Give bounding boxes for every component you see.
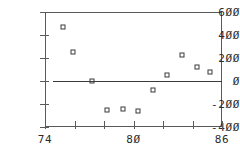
data-point bbox=[150, 88, 155, 93]
y-axis-tick-label: 4ØØ bbox=[202, 30, 240, 41]
y-axis-tick-label: -4ØØ bbox=[202, 122, 240, 133]
x-axis-tick-label: 86 bbox=[215, 134, 229, 145]
data-point bbox=[104, 107, 109, 112]
y-axis-tick-mark bbox=[40, 12, 49, 13]
data-point bbox=[135, 109, 140, 114]
data-point bbox=[180, 52, 185, 57]
x-axis-tick-mark bbox=[163, 121, 164, 129]
y-axis-tick-mark bbox=[40, 58, 49, 59]
x-axis-tick-mark bbox=[134, 121, 135, 129]
x-axis-tick-label: 8Ø bbox=[126, 134, 140, 145]
y-axis-tick-mark bbox=[40, 81, 49, 82]
x-axis-tick-mark bbox=[75, 121, 76, 129]
x-axis-tick-mark bbox=[222, 121, 223, 129]
zero-reference-line bbox=[53, 81, 222, 82]
y-axis-tick-label: 6ØØ bbox=[202, 7, 240, 18]
y-axis-tick-mark bbox=[40, 104, 49, 105]
data-point bbox=[194, 65, 199, 70]
x-axis-tick-mark bbox=[193, 121, 194, 129]
y-axis-tick-mark bbox=[40, 35, 49, 36]
data-point bbox=[71, 49, 76, 54]
data-point bbox=[208, 70, 213, 75]
x-axis-tick-label: 74 bbox=[38, 134, 52, 145]
y-axis-tick-label: 2ØØ bbox=[202, 53, 240, 64]
data-point bbox=[121, 107, 126, 112]
data-point bbox=[60, 24, 65, 29]
x-axis-tick-mark bbox=[104, 121, 105, 129]
scatter-chart: 6ØØ4ØØ2ØØØ-2ØØ-4ØØ 748Ø86 bbox=[0, 0, 240, 157]
x-axis-tick-mark bbox=[45, 121, 46, 129]
y-axis-tick-label: -2ØØ bbox=[202, 99, 240, 110]
data-point bbox=[165, 73, 170, 78]
